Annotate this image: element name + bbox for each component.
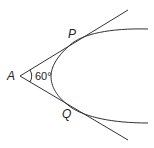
diagram-svg — [0, 0, 154, 148]
label-vertex-a: A — [7, 70, 15, 82]
tangent-line-upper — [20, 10, 128, 76]
angle-arc — [30, 70, 32, 82]
label-point-p: P — [68, 28, 76, 40]
label-point-q: Q — [62, 108, 71, 120]
label-angle: 60° — [35, 71, 52, 82]
diagram-canvas: A P Q 60° — [0, 0, 154, 148]
tangent-line-lower — [20, 76, 128, 140]
